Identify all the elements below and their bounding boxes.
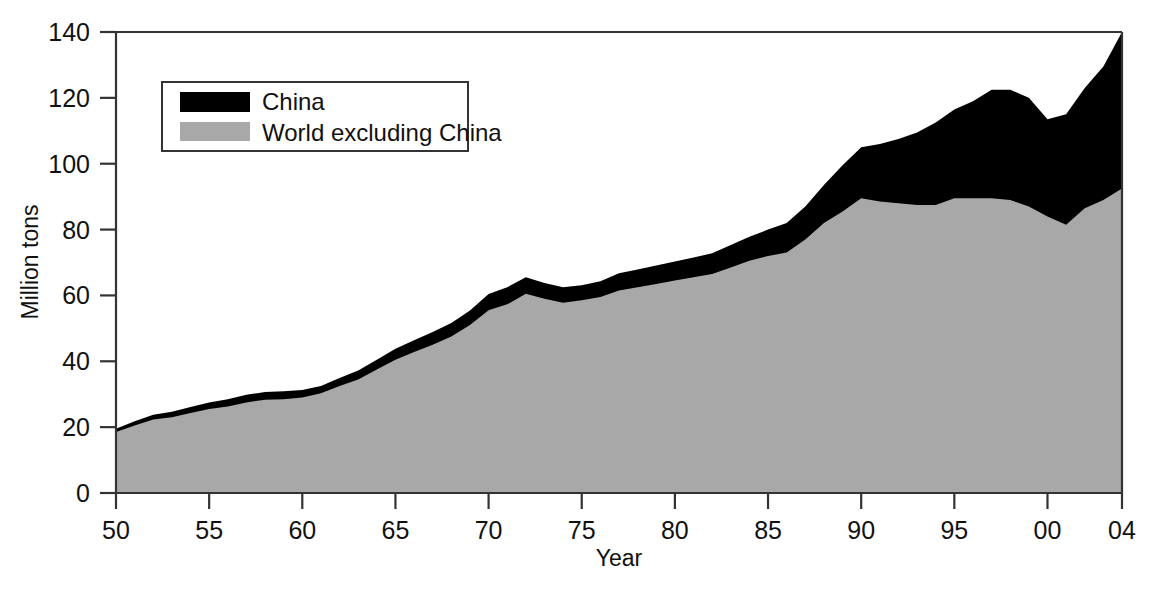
area-chart: 020406080100120140 505560657075808590950… — [0, 0, 1154, 590]
y-tick-label: 60 — [62, 281, 90, 309]
y-tick-label: 20 — [62, 413, 90, 441]
legend-swatch-world-excluding-china — [180, 122, 250, 141]
legend-label-world-excluding-china: World excluding China — [262, 119, 502, 146]
y-tick-label: 140 — [48, 18, 90, 46]
x-tick-label: 70 — [475, 516, 503, 544]
x-axis-title: Year — [596, 545, 643, 571]
x-tick-label: 95 — [940, 516, 968, 544]
legend: China World excluding China — [162, 82, 502, 151]
x-tick-label: 55 — [195, 516, 223, 544]
legend-swatch-china — [180, 92, 250, 112]
y-tick-label: 120 — [48, 84, 90, 112]
x-tick-label: 60 — [288, 516, 316, 544]
y-tick-label: 0 — [76, 479, 90, 507]
x-tick-label: 00 — [1034, 516, 1062, 544]
x-tick-label: 90 — [847, 516, 875, 544]
y-tick-label: 80 — [62, 216, 90, 244]
y-tick-label: 40 — [62, 347, 90, 375]
x-tick-label: 85 — [754, 516, 782, 544]
x-tick-label: 65 — [382, 516, 410, 544]
x-tick-label: 50 — [102, 516, 130, 544]
chart-container: 020406080100120140 505560657075808590950… — [0, 0, 1154, 590]
x-tick-label: 04 — [1108, 516, 1136, 544]
x-tick-label: 80 — [661, 516, 689, 544]
y-axis-title: Million tons — [17, 204, 43, 319]
y-tick-label: 100 — [48, 150, 90, 178]
x-tick-label: 75 — [568, 516, 596, 544]
legend-label-china: China — [262, 88, 325, 115]
